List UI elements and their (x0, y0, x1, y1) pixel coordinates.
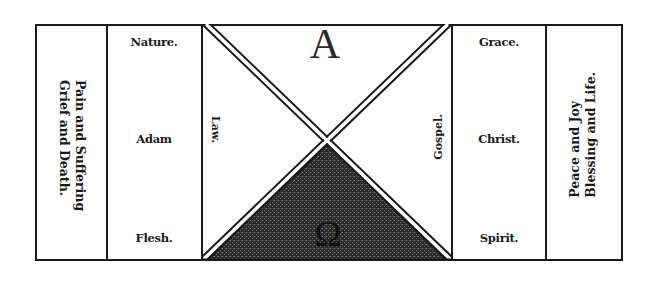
label-christ: Christ. (478, 132, 520, 146)
right-outer-line2: Blessing and Life. (583, 72, 598, 198)
label-law: Law. (207, 116, 223, 143)
left-outer-line1: Pain and Suffering (73, 80, 88, 211)
left-outer-text: Pain and Suffering Grief and Death. (56, 80, 88, 211)
letter-omega: Ω (315, 213, 342, 255)
left-outer-column: Pain and Suffering Grief and Death. (37, 24, 106, 261)
label-flesh: Flesh. (136, 231, 173, 245)
right-inner-column: Grace. Christ. Spirit. (453, 24, 545, 261)
label-nature: Nature. (131, 35, 178, 49)
left-outer-line2: Grief and Death. (57, 80, 72, 196)
right-outer-line1: Peace and Joy (567, 101, 582, 198)
label-grace: Grace. (479, 35, 519, 49)
letter-alpha: A (310, 20, 340, 68)
label-spirit: Spirit. (480, 231, 518, 245)
right-outer-text: Peace and Joy Blessing and Life. (567, 72, 599, 198)
left-inner-column: Nature. Adam Flesh. (108, 24, 201, 261)
right-outer-column: Peace and Joy Blessing and Life. (547, 24, 621, 261)
label-adam: Adam (136, 132, 171, 146)
label-gospel: Gospel. (431, 114, 447, 160)
